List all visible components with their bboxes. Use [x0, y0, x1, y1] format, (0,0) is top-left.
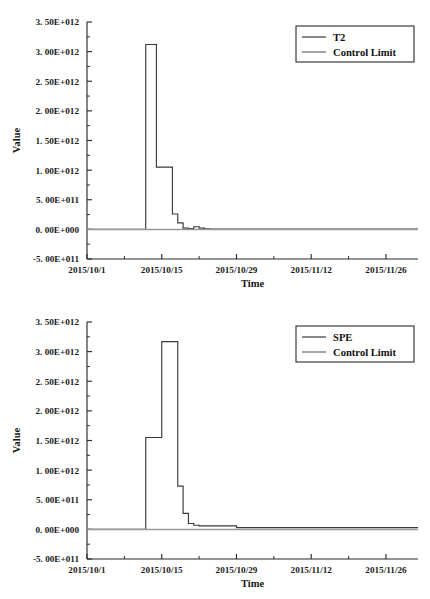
y-tick-label: 3. 00E+012 — [35, 47, 79, 57]
legend-label: Control Limit — [333, 347, 397, 358]
y-axis-title: Value — [11, 128, 22, 154]
y-tick-label: 2. 00E+012 — [35, 106, 79, 116]
y-tick-label: 1. 50E+012 — [35, 136, 79, 146]
x-axis-title: Time — [241, 278, 264, 289]
x-tick-label: 2015/10/29 — [216, 565, 258, 575]
y-tick-label: 5. 00E+011 — [36, 195, 79, 205]
y-axis-title: Value — [11, 428, 22, 454]
y-tick-label: 2. 00E+012 — [35, 406, 79, 416]
y-tick-label: 3. 50E+012 — [35, 317, 79, 327]
x-tick-label: 2015/10/15 — [141, 265, 183, 275]
caption-partial — [0, 585, 430, 599]
legend-label: T2 — [333, 32, 345, 43]
spe-control-chart: 3. 50E+0123. 00E+0122. 50E+0122. 00E+012… — [0, 300, 430, 590]
y-tick-label: 5. 00E+011 — [36, 495, 79, 505]
y-tick-label: 3. 00E+012 — [35, 347, 79, 357]
x-tick-label: 2015/10/29 — [216, 265, 258, 275]
x-tick-label: 2015/11/12 — [291, 565, 333, 575]
y-tick-label: 3. 50E+012 — [35, 17, 79, 27]
y-tick-label: 1. 00E+012 — [35, 466, 79, 476]
y-tick-label: -5. 00E+011 — [33, 254, 79, 264]
x-tick-label: 2015/11/12 — [291, 265, 333, 275]
x-tick-label: 2015/11/26 — [365, 565, 407, 575]
legend-label: SPE — [333, 332, 352, 343]
x-tick-label: 2015/10/15 — [141, 565, 183, 575]
legend-label: Control Limit — [333, 47, 397, 58]
t2-chart-canvas: 3. 50E+0123. 00E+0122. 50E+0122. 00E+012… — [0, 0, 430, 290]
t2-control-chart: 3. 50E+0123. 00E+0122. 50E+0122. 00E+012… — [0, 0, 430, 290]
data-series-line — [87, 342, 418, 530]
x-tick-label: 2015/11/26 — [365, 265, 407, 275]
y-tick-label: 0. 00E+000 — [35, 225, 79, 235]
spe-chart-canvas: 3. 50E+0123. 00E+0122. 50E+0122. 00E+012… — [0, 300, 430, 590]
data-series-line — [87, 45, 418, 230]
y-tick-label: 1. 00E+012 — [35, 166, 79, 176]
y-tick-label: -5. 00E+011 — [33, 554, 79, 564]
y-tick-label: 1. 50E+012 — [35, 436, 79, 446]
y-tick-label: 2. 50E+012 — [35, 77, 79, 87]
x-tick-label: 2015/10/1 — [68, 265, 106, 275]
y-tick-label: 0. 00E+000 — [35, 525, 79, 535]
figure-root: 3. 50E+0123. 00E+0122. 50E+0122. 00E+012… — [0, 0, 430, 599]
x-tick-label: 2015/10/1 — [68, 565, 106, 575]
y-tick-label: 2. 50E+012 — [35, 377, 79, 387]
